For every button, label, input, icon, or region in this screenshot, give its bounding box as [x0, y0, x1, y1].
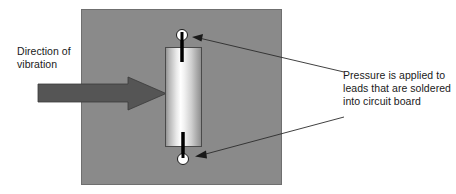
capacitor-body [166, 48, 202, 147]
vibration-pressure-diagram: Direction of vibration Pressure is appli… [0, 0, 456, 194]
direction-of-vibration-label: Direction of vibration [17, 45, 71, 71]
pressure-note-label: Pressure is applied to leads that are so… [343, 69, 451, 109]
